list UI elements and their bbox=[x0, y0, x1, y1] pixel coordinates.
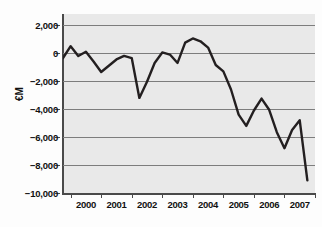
x-tick-mark bbox=[223, 193, 224, 198]
x-tick-label: 2002 bbox=[137, 199, 157, 210]
y-tick-label: −10,000 bbox=[25, 188, 58, 199]
x-tick-label: 2007 bbox=[290, 199, 310, 210]
x-tick-label: 2001 bbox=[106, 199, 126, 210]
x-tick-mark bbox=[162, 193, 163, 198]
y-axis-title: €M bbox=[14, 87, 25, 101]
x-tick-mark bbox=[101, 193, 102, 198]
x-tick-label: 2003 bbox=[168, 199, 188, 210]
series-polyline bbox=[63, 38, 307, 180]
x-tick-label: 2004 bbox=[198, 199, 218, 210]
y-tick-label: −8,000 bbox=[30, 160, 58, 171]
y-tick-label: −2,000 bbox=[30, 76, 58, 87]
y-axis-ticks: 2,0000−2,000−4,000−6,000−8,000−10,000 bbox=[0, 0, 58, 227]
x-tick-mark bbox=[193, 193, 194, 198]
y-tick-label: 0 bbox=[53, 48, 58, 59]
chart-figure: 2,0000−2,000−4,000−6,000−8,000−10,000 20… bbox=[0, 0, 322, 227]
y-tick-label: 2,000 bbox=[35, 20, 58, 31]
x-tick-mark bbox=[254, 193, 255, 198]
x-tick-label: 2006 bbox=[259, 199, 279, 210]
x-tick-mark bbox=[71, 193, 72, 198]
x-axis-line bbox=[62, 193, 316, 195]
x-tick-label: 2005 bbox=[229, 199, 249, 210]
x-tick-label: 2000 bbox=[76, 199, 96, 210]
x-tick-mark bbox=[284, 193, 285, 198]
data-series-line bbox=[63, 14, 315, 193]
y-tick-label: −4,000 bbox=[30, 104, 58, 115]
y-tick-label: −6,000 bbox=[30, 132, 58, 143]
x-tick-mark bbox=[132, 193, 133, 198]
x-tick-mark bbox=[315, 193, 316, 198]
